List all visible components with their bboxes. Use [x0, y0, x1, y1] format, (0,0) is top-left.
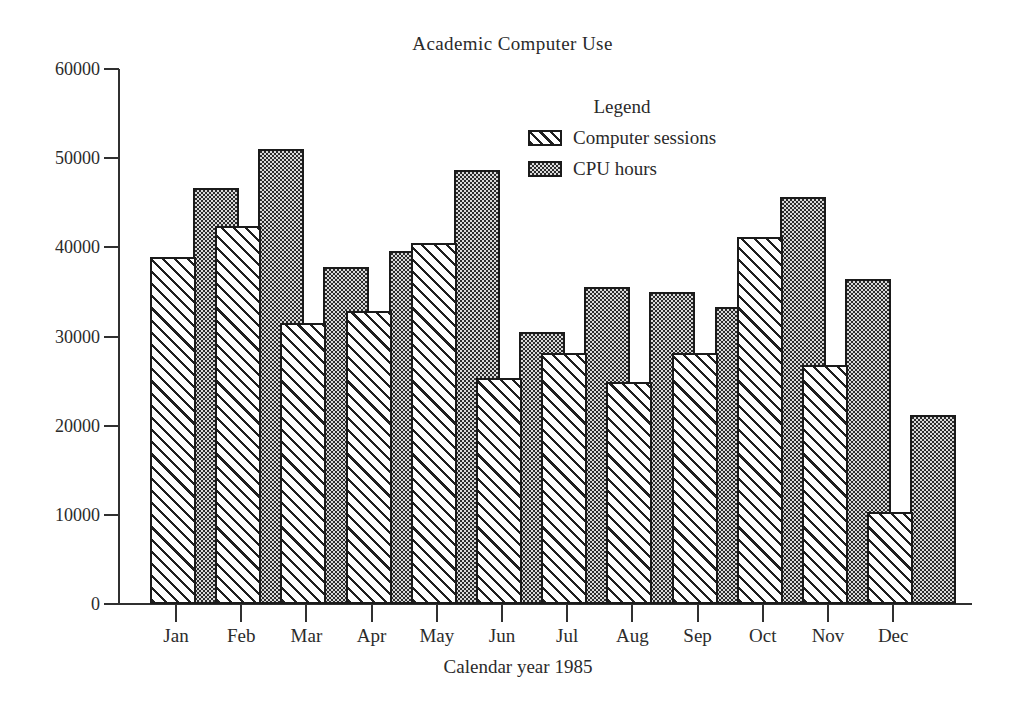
x-axis-tick: [762, 605, 764, 622]
bar-cpu-hours: [910, 415, 956, 604]
y-axis-tick-label: 50000: [4, 148, 100, 169]
legend-title: Legend: [534, 96, 710, 118]
y-axis-tick-label: 10000: [4, 504, 100, 525]
y-axis-tick-label: 20000: [4, 415, 100, 436]
y-axis-tick: [104, 425, 119, 427]
bar-computer-sessions: [672, 353, 718, 604]
x-axis-tick: [240, 605, 242, 622]
x-axis-tick-label: Nov: [793, 625, 863, 647]
legend-swatch-hatch-icon: [528, 130, 562, 146]
y-axis-tick: [104, 514, 119, 516]
x-axis-tick: [175, 605, 177, 622]
bar-computer-sessions: [737, 237, 783, 604]
bar-computer-sessions: [346, 311, 392, 604]
y-axis-tick-label: 0: [4, 594, 100, 615]
x-axis-tick-label: Sep: [663, 625, 733, 647]
x-axis-tick: [371, 605, 373, 622]
bar-computer-sessions: [606, 382, 652, 604]
legend-item-computer-sessions[interactable]: Computer sessions: [528, 127, 788, 149]
bar-computer-sessions: [541, 353, 587, 604]
x-axis-tick-label: Mar: [271, 625, 341, 647]
x-axis-tick: [566, 605, 568, 622]
y-axis-tick-label: 40000: [4, 237, 100, 258]
x-axis-tick-label: Dec: [858, 625, 928, 647]
x-axis-tick-label: Oct: [728, 625, 798, 647]
bar-computer-sessions: [411, 243, 457, 604]
x-axis-tick-label: Jul: [532, 625, 602, 647]
x-axis-tick: [501, 605, 503, 622]
x-axis-title: Calendar year 1985: [118, 656, 918, 678]
bar-computer-sessions: [867, 512, 913, 604]
y-axis-tick: [104, 246, 119, 248]
bar-computer-sessions: [215, 226, 261, 604]
y-axis-tick-label: 30000: [4, 326, 100, 347]
y-axis-tick: [104, 336, 119, 338]
y-axis-tick: [104, 68, 119, 70]
y-axis-tick: [104, 603, 119, 605]
x-axis-tick-label: Aug: [597, 625, 667, 647]
x-axis-tick: [827, 605, 829, 622]
x-axis-tick-label: Jun: [467, 625, 537, 647]
bar-computer-sessions: [150, 257, 196, 604]
x-axis-tick: [305, 605, 307, 622]
legend-item-cpu-hours[interactable]: CPU hours: [528, 158, 788, 180]
chart-root: Academic Computer Use 010000200003000040…: [0, 0, 1025, 710]
legend-label-computer-sessions: Computer sessions: [573, 127, 716, 149]
y-axis-tick-label: 60000: [4, 59, 100, 80]
bar-computer-sessions: [802, 365, 848, 604]
x-axis-tick: [631, 605, 633, 622]
x-axis-tick: [892, 605, 894, 622]
chart-title: Academic Computer Use: [0, 33, 1025, 55]
bar-computer-sessions: [280, 323, 326, 604]
x-axis-tick-label: Jan: [141, 625, 211, 647]
legend-swatch-dots-icon: [528, 161, 562, 177]
x-axis-tick-label: Feb: [206, 625, 276, 647]
bar-computer-sessions: [476, 378, 522, 604]
y-axis-tick: [104, 157, 119, 159]
x-axis-tick-label: May: [402, 625, 472, 647]
x-axis-tick: [436, 605, 438, 622]
legend: Legend Computer sessions CPU hours: [528, 96, 788, 180]
x-axis-tick: [697, 605, 699, 622]
legend-label-cpu-hours: CPU hours: [573, 158, 657, 180]
x-axis-tick-label: Apr: [337, 625, 407, 647]
